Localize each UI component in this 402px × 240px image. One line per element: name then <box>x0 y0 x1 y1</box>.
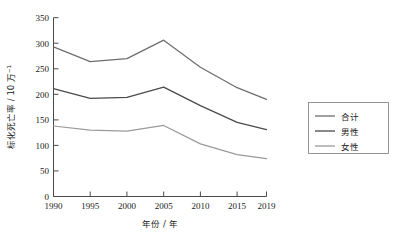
line-chart: 0 50 100 150 200 250 300 350 1990 1995 2… <box>0 0 402 240</box>
x-tick-marks <box>54 192 267 197</box>
axis-lines <box>54 18 267 197</box>
series-line-female <box>54 125 267 158</box>
x-tick-label: 1990 <box>45 201 64 211</box>
y-tick-label: 300 <box>36 39 50 49</box>
legend-label-female: 女性 <box>341 142 359 152</box>
y-tick-label: 150 <box>36 115 50 125</box>
legend: 合计 男性 女性 <box>309 103 389 154</box>
y-tick-label: 50 <box>40 166 50 176</box>
y-tick-label: 100 <box>36 141 50 151</box>
x-tick-labels: 1990 1995 2000 2005 2010 2015 2019 <box>45 201 277 211</box>
x-tick-label: 2010 <box>191 201 210 211</box>
y-tick-label: 200 <box>36 90 50 100</box>
x-tick-label: 2000 <box>118 201 137 211</box>
y-tick-labels: 0 50 100 150 200 250 300 350 <box>36 13 50 202</box>
y-tick-marks <box>54 18 59 197</box>
y-tick-label: 350 <box>36 13 50 23</box>
legend-label-male: 男性 <box>341 127 359 137</box>
series-group <box>54 40 267 159</box>
y-tick-label: 250 <box>36 64 50 74</box>
chart-container: 0 50 100 150 200 250 300 350 1990 1995 2… <box>0 0 402 240</box>
y-axis-title: 标化死亡率 / 10 万⁻¹ <box>6 65 16 149</box>
series-line-male <box>54 87 267 129</box>
series-line-total <box>54 40 267 99</box>
x-tick-label: 2015 <box>228 201 247 211</box>
legend-label-total: 合计 <box>341 112 359 122</box>
x-tick-label: 1995 <box>81 201 100 211</box>
x-tick-label: 2019 <box>258 201 277 211</box>
x-axis-title: 年份 / 年 <box>142 219 177 229</box>
x-tick-label: 2005 <box>155 201 174 211</box>
